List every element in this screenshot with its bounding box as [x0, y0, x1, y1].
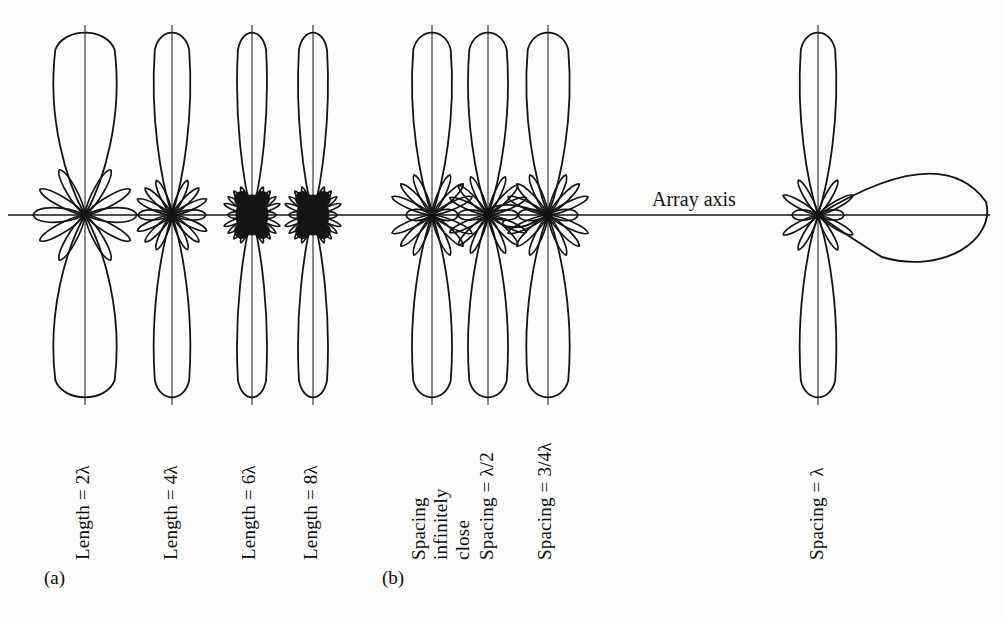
spacing-infinitely-close-line-2: close [452, 488, 474, 560]
dense-sidelobe-cluster [254, 223, 270, 239]
dense-sidelobe-cluster [295, 223, 311, 239]
dense-sidelobe-cluster [234, 191, 250, 207]
pattern-label-spacing-three-quarter-lambda: Spacing = 3/4λ [534, 442, 556, 560]
pattern-label-length-4lambda: Length = 4λ [160, 465, 182, 560]
dense-sidelobe-cluster [315, 223, 331, 239]
pattern-label-spacing-lambda: Spacing = λ [806, 467, 828, 560]
radiation-pattern-canvas [0, 0, 1003, 617]
dense-sidelobe-cluster [234, 223, 250, 239]
pattern-label-spacing-infinitely-close: Spacinginfinitelyclose [408, 488, 474, 560]
panel-a-label: (a) [44, 567, 65, 589]
dense-sidelobe-cluster [254, 191, 270, 207]
dense-sidelobe-cluster [315, 191, 331, 207]
spacing-infinitely-close-line-1: infinitely [430, 488, 452, 560]
spacing-infinitely-close-line-0: Spacing [408, 488, 430, 560]
antenna-radiation-pattern-figure: Array axis (a) (b) Length = 2λ Length = … [0, 0, 1003, 617]
pattern-label-length-2lambda: Length = 2λ [72, 465, 94, 560]
pattern-label-length-8lambda: Length = 8λ [300, 465, 322, 560]
array-axis-label: Array axis [652, 188, 736, 211]
panel-b-label: (b) [382, 567, 404, 589]
dense-sidelobe-cluster [295, 191, 311, 207]
pattern-label-spacing-half-lambda: Spacing = λ/2 [476, 452, 498, 560]
pattern-label-length-6lambda: Length = 6λ [238, 465, 260, 560]
